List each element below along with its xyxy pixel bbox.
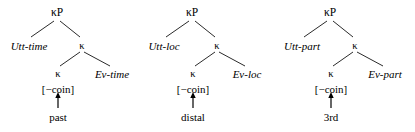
node-specifier-time: Utt-time [11, 41, 48, 52]
node-low-head-loc: κ [190, 69, 195, 80]
node-feature-loc: [−coin] [177, 84, 209, 95]
node-feature-part: [−coin] [315, 84, 347, 95]
node-mid-head-time: κ [79, 41, 84, 52]
node-root-time: κP [51, 7, 63, 19]
node-lexical-item-time: past [49, 112, 67, 123]
node-low-head-time: κ [55, 69, 60, 80]
node-lexical-item-loc: distal [181, 112, 205, 123]
node-root-loc: κP [186, 7, 198, 19]
tree-branches-time [0, 0, 140, 132]
node-complement-part: Ev-part [368, 69, 402, 80]
node-mid-head-part: κ [352, 41, 357, 52]
node-low-head-part: κ [328, 69, 333, 80]
node-feature-time: [−coin] [42, 84, 74, 95]
node-specifier-part: Utt-part [284, 41, 320, 52]
node-complement-time: Ev-time [95, 69, 129, 80]
tree-diagram-part: κP Utt-part κ κ Ev-part [−coin] 3rd [273, 0, 413, 132]
node-root-part: κP [324, 7, 336, 19]
tree-branches-part [273, 0, 413, 132]
tree-diagram-time: κP Utt-time κ κ Ev-time [−coin] past [0, 0, 140, 132]
tree-diagram-loc: κP Utt-loc κ κ Ev-loc [−coin] distal [135, 0, 275, 132]
tree-branches-loc [135, 0, 275, 132]
node-lexical-item-part: 3rd [324, 112, 339, 123]
node-specifier-loc: Utt-loc [148, 41, 179, 52]
node-complement-loc: Ev-loc [233, 69, 262, 80]
syntactic-tree-figure: κP Utt-time κ κ Ev-time [−coin] past κP … [0, 0, 415, 132]
node-mid-head-loc: κ [214, 41, 219, 52]
